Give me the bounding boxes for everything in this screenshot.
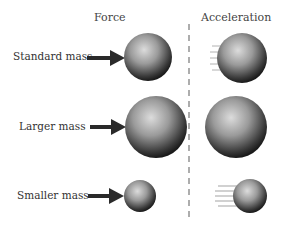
larger-mass-sphere — [125, 96, 187, 158]
force-acceleration-diagram: Force Acceleration Standard mass Larger … — [0, 0, 288, 240]
smaller-mass-sphere — [124, 180, 156, 212]
larger-mass-accel-sphere — [205, 96, 267, 158]
force-arrow-icon — [90, 119, 126, 135]
diagram-graphics — [0, 0, 288, 240]
smaller-mass-accel-sphere — [233, 179, 267, 213]
standard-mass-sphere — [124, 33, 172, 81]
force-arrow-icon — [88, 188, 124, 204]
standard-mass-accel-sphere — [217, 33, 267, 83]
force-arrow-icon — [87, 50, 125, 66]
